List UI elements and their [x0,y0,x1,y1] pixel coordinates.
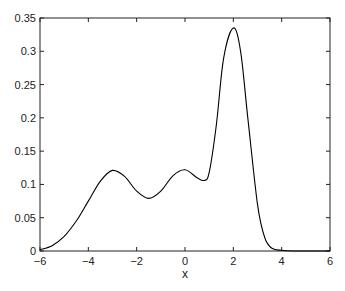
y-tick-label: 0.35 [15,12,36,24]
y-tick-label: 0.25 [15,79,36,91]
y-tick-label: 0.05 [15,212,36,224]
x-tick-label: 0 [182,255,188,267]
x-axis-label: x [182,267,188,281]
plot-area [40,18,330,251]
x-tick-label: 6 [327,255,333,267]
y-tick-label: 0.15 [15,145,36,157]
y-tick-label: 0 [30,245,36,257]
chart: −6−4−20246 00.050.10.150.20.250.30.35 x [0,0,345,291]
x-tick-label: −2 [130,255,143,267]
y-tick-label: 0.1 [21,178,36,190]
x-tick-label: 4 [279,255,285,267]
y-tick-label: 0.2 [21,112,36,124]
y-tick-label: 0.3 [21,45,36,57]
x-tick-label: −4 [82,255,95,267]
x-tick-label: 2 [230,255,236,267]
